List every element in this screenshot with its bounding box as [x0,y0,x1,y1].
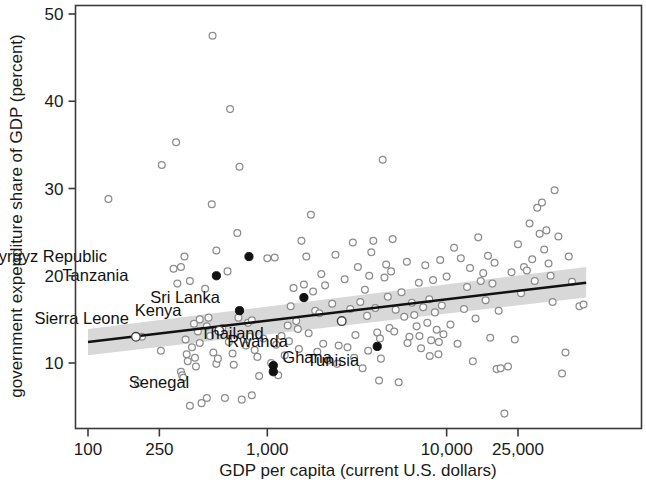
scatter-point [378,355,385,362]
scatter-point [192,354,199,361]
scatter-point [361,286,368,293]
y-axis-title: government expenditure share of GDP (per… [7,34,26,398]
highlighted-point-senegal [269,368,277,376]
scatter-plot-figure: Kyrgyz RepublicTanzaniaSri LankaKenyaSie… [0,0,646,485]
scatter-point [335,342,342,349]
scatter-point [182,336,189,343]
scatter-point [332,251,339,258]
scatter-point [454,340,461,347]
y-tick-label: 50 [45,5,64,24]
scatter-point [495,307,502,314]
scatter-point [329,300,336,307]
scatter-point [254,353,261,360]
scatter-point [461,306,468,313]
scatter-point [562,349,569,356]
scatter-point [184,358,191,365]
scatter-point [208,201,215,208]
scatter-point [227,106,234,113]
scatter-point [389,236,396,243]
scatter-point [344,344,351,351]
scatter-point [158,162,165,169]
scatter-point [349,239,356,246]
scatter-point [469,358,476,365]
scatter-point [505,363,512,370]
scatter-point [443,273,450,280]
scatter-point [341,276,348,283]
scatter-point [541,246,548,253]
scatter-point [388,268,395,275]
scatter-point [539,199,546,206]
scatter-point [392,306,399,313]
scatter-point [426,353,433,360]
scatter-point [256,373,263,380]
scatter-point [310,288,317,295]
scatter-point [447,321,454,328]
scatter-point [322,282,329,289]
scatter-point [301,281,308,288]
scatter-point [178,264,185,271]
scatter-point [435,351,442,358]
scatter-point [364,312,371,319]
scatter-point [181,253,188,260]
point-label-kenya: Kenya [135,301,183,319]
scatter-point [489,280,496,287]
scatter-point [401,313,408,320]
scatter-point [196,316,203,323]
scatter-point [370,237,377,244]
scatter-point [413,323,420,330]
scatter-point [234,230,241,237]
point-label-tunisia: Tunisia [307,351,360,369]
scatter-point [420,304,427,311]
scatter-point [467,265,474,272]
scatter-point [320,340,327,347]
scatter-point [404,340,411,347]
scatter-point [284,322,291,329]
scatter-point [491,259,498,266]
scatter-point [438,302,445,309]
scatter-point [451,244,458,251]
scatter-point [472,315,479,322]
scatter-point [416,333,423,340]
scatter-point [432,309,439,316]
scatter-point [381,274,388,281]
highlighted-point-tunisia [373,342,381,350]
x-tick-label: 250 [145,440,173,459]
scatter-point [359,365,366,372]
scatter-point [214,355,221,362]
scatter-point [236,163,243,170]
scatter-point [418,345,425,352]
scatter-point [384,293,391,300]
scatter-point [305,330,312,337]
point-label-thailand: Thailand [200,324,263,342]
scatter-point [487,334,494,341]
scatter-point [365,347,372,354]
scatter-point [186,278,193,285]
scatter-point [198,400,205,407]
scatter-point [287,303,294,310]
x-tick-label: 25,000 [492,440,544,459]
scatter-point [308,211,315,218]
scatter-point [565,253,572,260]
scatter-point [186,402,193,409]
scatter-point [229,350,236,357]
y-tick-label: 30 [45,180,64,199]
x-axis-title: GDP per capita (current U.S. dollars) [219,461,496,480]
scatter-point [222,395,229,402]
x-tick-label: 10,000 [421,440,473,459]
scatter-point [368,249,375,256]
scatter-point [264,255,271,262]
scatter-point [508,269,515,276]
scatter-point [497,365,504,372]
scatter-point [203,395,210,402]
scatter-point [551,187,558,194]
scatter-point [173,139,180,146]
scatter-point [428,337,435,344]
scatter-point [352,332,359,339]
scatter-point [376,377,383,384]
scatter-point [485,252,492,259]
chart-canvas: Kyrgyz RepublicTanzaniaSri LankaKenyaSie… [0,0,646,485]
scatter-point [536,230,543,237]
point-label-sierra-leone: Sierra Leone [34,309,128,327]
scatter-point [547,272,554,279]
scatter-point [559,370,566,377]
